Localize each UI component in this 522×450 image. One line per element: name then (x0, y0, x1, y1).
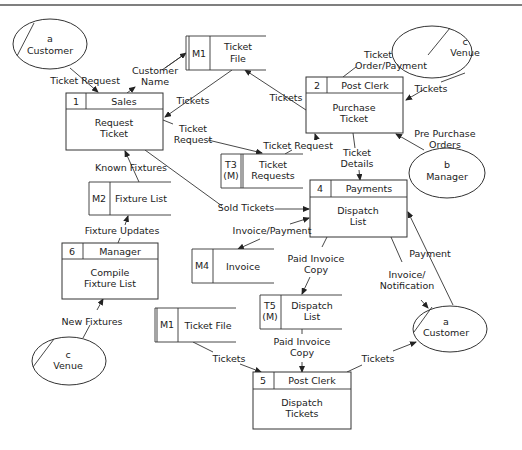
data-flow-diagram: a Customer c Venue b Manager a Customer … (0, 0, 522, 450)
flow-label: Ticket (363, 49, 392, 60)
entity-manager[interactable]: b Manager (409, 148, 485, 198)
store-name: Invoice (226, 261, 260, 272)
process-name: Tickets (284, 408, 318, 419)
process-actor: Post Clerk (341, 80, 389, 91)
flow-label: Request (174, 134, 213, 145)
flow-invoice-notification-arrow (421, 300, 428, 308)
process-5-dispatch-tickets[interactable]: 5 Post Clerk Dispatch Tickets (253, 372, 351, 429)
entity-id: b (444, 159, 450, 170)
flow-label: Ticket Request (262, 140, 333, 151)
flow-label: Paid Invoice (288, 253, 345, 264)
store-name: Ticket (258, 159, 287, 170)
flow-paid-invoice-upper (322, 237, 327, 247)
flow-ticket-details-arrow (359, 170, 360, 180)
process-number: 4 (317, 183, 323, 194)
flow-ticket-request-p1 (163, 120, 173, 124)
process-4-dispatch-list[interactable]: 4 Payments Dispatch List (310, 180, 407, 237)
flow-invoice-payment-to-p4 (290, 218, 309, 224)
store-m2-fixture-list[interactable]: M2 Fixture List (89, 182, 171, 215)
process-name: Fixture List (84, 278, 136, 289)
flow-tickets-p2-m1 (245, 70, 306, 110)
entity-name: Customer (27, 45, 73, 56)
process-name: Dispatch (337, 205, 379, 216)
flow-label: Tickets (175, 95, 209, 106)
flow-label: Payment (409, 248, 451, 259)
store-t5-dispatch-list[interactable]: T5 (M) Dispatch List (260, 295, 342, 329)
flow-tickets-p5-arrow (393, 342, 416, 351)
entity-name: Customer (423, 327, 469, 338)
process-6-compile-fixture-list[interactable]: 6 Manager Compile Fixture List (62, 243, 158, 299)
flow-label: Ticket (178, 123, 207, 134)
store-id: (M) (223, 170, 239, 181)
flow-label: New Fixtures (61, 316, 122, 327)
process-number: 5 (260, 375, 266, 386)
flow-label: Tickets (268, 92, 302, 103)
entity-id: c (462, 36, 467, 47)
entity-venue-bottom[interactable]: c Venue (32, 337, 106, 385)
process-number: 2 (314, 80, 320, 91)
flow-ticket-details-upper (353, 133, 355, 148)
entity-name: Venue (53, 360, 83, 371)
flow-paid-invoice-arrow (302, 277, 310, 294)
flow-label: Tickets (211, 353, 245, 364)
flow-label: Tickets (360, 353, 394, 364)
process-name: Dispatch (281, 397, 323, 408)
process-number: 1 (73, 96, 79, 107)
flow-label: Pre Purchase (414, 128, 475, 139)
flow-label: Copy (290, 347, 314, 358)
process-name: Request (95, 117, 134, 128)
flow-label: Sold Tickets (218, 202, 275, 213)
store-id: T5 (263, 300, 276, 311)
store-id: M4 (195, 260, 209, 271)
flow-label: Fixture Updates (85, 225, 160, 236)
store-name: Ticket (223, 41, 252, 52)
flow-label: Ticket Request (49, 75, 120, 86)
store-id: M1 (192, 48, 206, 59)
process-2-purchase-ticket[interactable]: 2 Post Clerk Purchase Ticket (306, 77, 403, 133)
entity-id: c (65, 349, 70, 360)
process-name: Purchase (332, 102, 375, 113)
store-name: Fixture List (115, 193, 167, 204)
flow-label: Tickets (413, 83, 447, 94)
store-t3-ticket-requests[interactable]: T3 (M) Ticket Requests (221, 154, 303, 188)
store-id: M2 (92, 193, 106, 204)
flow-fixture-updates-lower (118, 238, 120, 243)
entity-name: Venue (450, 47, 480, 58)
flow-label: Order/Payment (355, 60, 427, 71)
flow-label: Notification (380, 280, 435, 291)
flow-label: Copy (304, 264, 328, 275)
entity-id: a (443, 316, 449, 327)
store-m1-ticket-file-bottom[interactable]: M1 Ticket File (155, 308, 236, 342)
flow-label: Customer (132, 65, 178, 76)
store-id: T3 (224, 159, 237, 170)
store-name: Ticket File (183, 320, 231, 331)
flow-label: Known Fixtures (95, 162, 167, 173)
flow-ticket-request-p1-arrow (208, 140, 262, 153)
process-actor: Payments (346, 183, 393, 194)
flow-invoice-payment-to-m4 (238, 239, 260, 249)
process-number: 6 (69, 246, 75, 257)
store-m4-invoice[interactable]: M4 Invoice (192, 249, 274, 283)
flow-tickets-m1b-line (193, 342, 213, 352)
flow-tickets-m1b-arrow (240, 364, 261, 372)
entity-id: a (47, 33, 53, 44)
flow-label: Paid Invoice (274, 336, 331, 347)
flow-invoice-notification-upper (391, 237, 402, 262)
entity-name: Manager (426, 171, 468, 182)
process-actor: Manager (99, 246, 141, 257)
entity-customer-bottom[interactable]: a Customer (413, 306, 487, 352)
store-name: Dispatch (291, 300, 333, 311)
entity-customer-top[interactable]: a Customer (13, 19, 87, 69)
store-name: Requests (251, 170, 295, 181)
flow-label: Orders (429, 139, 461, 150)
flow-tickets-p5-line (347, 365, 362, 372)
store-name: File (230, 53, 246, 64)
flow-tickets-m1-p1 (165, 70, 232, 117)
process-name: Ticket (99, 128, 128, 139)
store-m1-ticket-file-top[interactable]: M1 Ticket File (186, 36, 266, 70)
flow-label: Invoice/ (388, 269, 426, 280)
flow-customer-name (127, 87, 135, 93)
store-id: M1 (160, 319, 174, 330)
process-1-request-ticket[interactable]: 1 Sales Request Ticket (66, 93, 163, 150)
flow-label: Invoice/Payment (233, 225, 312, 236)
